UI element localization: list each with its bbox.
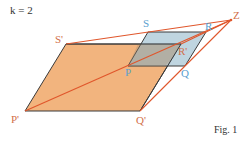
figure-caption: Fig. 1 xyxy=(214,124,237,135)
label-s: S xyxy=(143,17,149,29)
label-r: R xyxy=(205,20,213,32)
label-q: Q xyxy=(181,67,189,79)
label-s-prime: S' xyxy=(55,33,63,45)
center-point xyxy=(230,19,233,22)
enlargement-diagram: Z S R Q P S' R' P' Q' xyxy=(0,0,241,141)
label-p-prime: P' xyxy=(11,113,19,125)
label-q-prime: Q' xyxy=(136,114,146,126)
label-p: P xyxy=(125,66,131,78)
label-r-prime: R' xyxy=(178,45,187,57)
label-z: Z xyxy=(233,9,240,21)
